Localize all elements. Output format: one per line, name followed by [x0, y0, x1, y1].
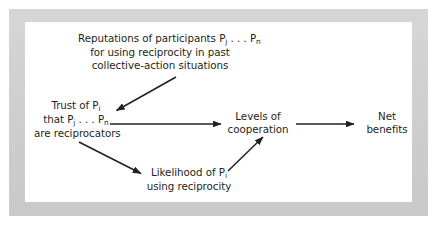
node-trust-line2: that Pj . . . Pn: [34, 113, 118, 127]
node-reputations-line2: for using reciprocity in past: [78, 46, 242, 59]
node-likelihood-line2: using reciprocity: [142, 180, 236, 193]
node-net-benefits-line2: benefits: [356, 123, 418, 136]
arrow-trust-to-likelihood: [79, 142, 141, 174]
node-reputations-line3: collective-action situations: [78, 59, 242, 72]
arrow-reputations-to-trust: [117, 77, 177, 111]
node-trust-line1: Trust of Pi: [34, 99, 118, 113]
node-net-benefits: Net benefits: [356, 110, 418, 136]
node-trust-line3: are reciprocators: [34, 127, 118, 140]
node-net-benefits-line1: Net: [356, 110, 418, 123]
node-reputations-line1: Reputations of participants Pj . . . Pn: [78, 32, 242, 46]
node-trust: Trust of Pi that Pj . . . Pn are recipro…: [34, 99, 118, 141]
node-cooperation-line2: cooperation: [222, 123, 294, 136]
node-reputations: Reputations of participants Pj . . . Pn …: [78, 32, 242, 73]
node-likelihood-line1: Likelihood of Pi: [142, 166, 236, 180]
node-cooperation-line1: Levels of: [222, 110, 294, 123]
node-likelihood: Likelihood of Pi using reciprocity: [142, 166, 236, 193]
node-cooperation: Levels of cooperation: [222, 110, 294, 136]
figure-root: Reputations of participants Pj . . . Pn …: [0, 0, 437, 232]
